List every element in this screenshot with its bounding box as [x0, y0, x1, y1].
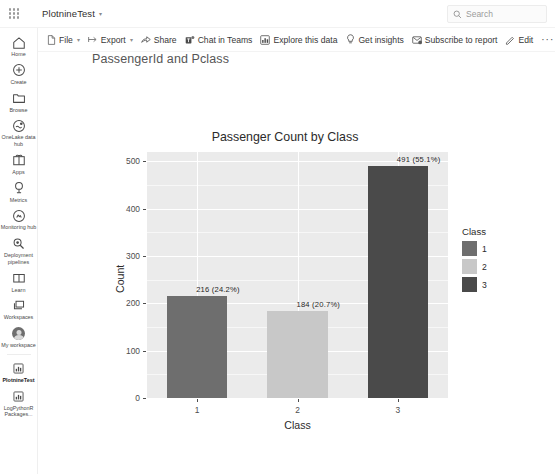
chart-bar[interactable]	[368, 166, 428, 398]
sidebar-item-browse[interactable]: Browse	[0, 88, 38, 116]
file-icon	[46, 35, 56, 45]
chart-y-tick-label: 200	[126, 298, 140, 308]
chart-x-tick-label: 3	[395, 405, 400, 415]
legend-item[interactable]: 3	[462, 277, 552, 292]
toolbar-more-button[interactable]: ···	[537, 34, 555, 45]
report-icon	[11, 389, 26, 404]
toolbar-chat-in-teams-button[interactable]: Chat in Teams	[181, 33, 257, 47]
chart-y-tick-mark	[143, 161, 146, 162]
chart-y-tick-label: 400	[126, 204, 140, 214]
legend-item-label: 2	[482, 262, 487, 272]
toolbar-explore-this-data-button[interactable]: Explore this data	[256, 33, 341, 47]
report-toolbar: File ▾ Export ▾ Share Chat in Teams	[38, 28, 555, 52]
monitoring-icon	[11, 208, 26, 223]
pencil-icon	[505, 35, 515, 45]
chart-legend: Class 1 2 3	[462, 226, 552, 295]
chart-bar-label: 184 (20.7%)	[297, 300, 341, 309]
report-canvas: PassengerId and Pclass Passenger Count b…	[38, 52, 555, 474]
sidebar-item-deployment-pipelines[interactable]: Deployment pipelines	[0, 233, 38, 268]
chart-bar[interactable]	[167, 296, 227, 398]
chart-y-tick-label: 300	[126, 251, 140, 261]
sidebar-item-learn[interactable]: Learn	[0, 268, 38, 296]
chevron-down-icon: ▾	[77, 37, 80, 43]
chart-y-tick-mark	[143, 209, 146, 210]
subscribe-icon	[412, 35, 422, 45]
chart-y-tick-label: 500	[126, 156, 140, 166]
toolbar-edit-label: Edit	[518, 35, 533, 45]
toolbar-export-button[interactable]: Export ▾	[84, 33, 137, 47]
sidebar-item-plotninetest[interactable]: PlotnineTest	[0, 358, 38, 386]
chart-y-tick-mark	[143, 256, 146, 257]
legend-color-swatch	[462, 277, 477, 292]
sidebar-item-browse-label: Browse	[10, 107, 28, 114]
sidebar-item-home[interactable]: Home	[0, 32, 38, 60]
sidebar-item-onelake-data-hub[interactable]: OneLake data hub	[0, 115, 38, 150]
toolbar-edit-button[interactable]: Edit	[501, 33, 537, 47]
chart-y-tick-mark	[143, 351, 146, 352]
chart-x-tick-mark	[197, 399, 198, 402]
legend-item[interactable]: 2	[462, 259, 552, 274]
chart-bar[interactable]	[267, 311, 327, 398]
legend-item[interactable]: 1	[462, 241, 552, 256]
export-icon	[88, 35, 98, 45]
search-input[interactable]: Search	[447, 5, 547, 23]
sidebar-item-apps-label: Apps	[12, 169, 24, 176]
chart-title: Passenger Count by Class	[100, 130, 470, 144]
chart-plot-area: 216 (24.2%)184 (20.7%)491 (55.1%)	[147, 152, 448, 398]
legend-item-label: 3	[482, 280, 487, 290]
chart-legend-title: Class	[462, 226, 552, 237]
apps-icon	[11, 153, 26, 168]
sidebar-item-logpythonr-packages[interactable]: LogPythonR Packages...	[0, 386, 38, 421]
toolbar-share-label: Share	[154, 35, 177, 45]
chart-y-axis-title: Count	[114, 265, 126, 293]
chart-x-tick-mark	[298, 399, 299, 402]
legend-item-label: 1	[482, 244, 487, 254]
toolbar-file-button[interactable]: File ▾	[42, 33, 84, 47]
toolbar-subscribe-to-report-label: Subscribe to report	[425, 35, 498, 45]
onelake-icon	[11, 118, 26, 133]
workspace-switcher[interactable]: PlotnineTest ▾	[42, 8, 102, 19]
chart-x-axis-title: Class	[147, 419, 448, 431]
plus-circle-icon	[11, 63, 26, 78]
app-launcher-icon[interactable]	[0, 0, 28, 28]
sidebar-item-create-label: Create	[10, 79, 26, 86]
sidebar-item-monitoring-hub-label: Monitoring hub	[1, 224, 37, 231]
toolbar-share-button[interactable]: Share	[137, 33, 181, 47]
chart-y-tick-label: 100	[126, 346, 140, 356]
toolbar-export-label: Export	[101, 35, 126, 45]
chevron-down-icon: ▾	[130, 37, 133, 43]
workspace-name: PlotnineTest	[42, 8, 95, 19]
toolbar-get-insights-button[interactable]: Get insights	[341, 33, 407, 47]
sidebar-item-onelake-data-hub-label: OneLake data hub	[1, 134, 37, 148]
top-bar: PlotnineTest ▾ Search	[0, 0, 555, 28]
sidebar-item-metrics[interactable]: Metrics	[0, 178, 38, 206]
toolbar-subscribe-to-report-button[interactable]: Subscribe to report	[408, 33, 502, 47]
passenger-count-chart[interactable]: Passenger Count by Class 216 (24.2%)184 …	[100, 118, 555, 458]
chart-y-tick-label: 0	[135, 393, 140, 403]
sidebar-item-home-label: Home	[11, 51, 25, 58]
explore-icon	[260, 35, 270, 45]
report-icon	[11, 361, 26, 376]
chart-y-tick-mark	[143, 398, 146, 399]
sidebar-item-apps[interactable]: Apps	[0, 150, 38, 178]
sidebar-item-monitoring-hub[interactable]: Monitoring hub	[0, 205, 38, 233]
toolbar-get-insights-label: Get insights	[358, 35, 403, 45]
folder-icon	[11, 91, 26, 106]
toolbar-explore-this-data-label: Explore this data	[273, 35, 337, 45]
chevron-down-icon: ▾	[99, 11, 102, 17]
sidebar-item-my-workspace[interactable]: My workspace	[0, 323, 38, 351]
page-title: PassengerId and Pclass	[92, 52, 229, 66]
avatar-icon	[11, 326, 26, 341]
sidebar-divider	[7, 354, 31, 355]
workspaces-icon	[11, 298, 26, 313]
sidebar-item-workspaces[interactable]: Workspaces	[0, 295, 38, 323]
toolbar-chat-in-teams-label: Chat in Teams	[198, 35, 253, 45]
sidebar-item-metrics-label: Metrics	[10, 197, 27, 204]
sidebar-item-learn-label: Learn	[12, 287, 26, 294]
sidebar-item-create[interactable]: Create	[0, 60, 38, 88]
teams-icon	[185, 35, 195, 45]
sidebar-item-my-workspace-label: My workspace	[1, 342, 35, 349]
home-icon	[11, 35, 26, 50]
sidebar-item-plotninetest-label: PlotnineTest	[3, 377, 35, 384]
sidebar-item-workspaces-label: Workspaces	[4, 314, 34, 321]
